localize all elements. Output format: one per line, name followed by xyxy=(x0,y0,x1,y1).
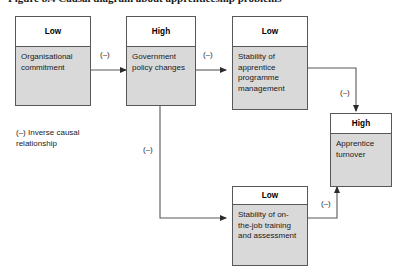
node-label: Apprentice turnover xyxy=(331,134,391,186)
node-apprentice-turnover[interactable]: High Apprentice turnover xyxy=(330,113,392,187)
node-level-badge: High xyxy=(127,17,195,47)
causal-diagram: Figure 8.4 Causal diagram about apprenti… xyxy=(0,0,402,274)
node-organisational-commitment[interactable]: Low Organisational commitment xyxy=(15,16,91,106)
node-stability-on-the-job-training[interactable]: Low Stability of on-the-job training and… xyxy=(232,186,308,266)
node-level-badge: Low xyxy=(16,17,90,47)
node-label: Stability of apprentice programme manage… xyxy=(233,47,307,109)
connector-policy-to-onthejob-training xyxy=(160,105,226,218)
edge-label-policy-to-programme-management: (–) xyxy=(203,50,213,59)
edge-label-onthejob-training-to-turnover: (–) xyxy=(321,199,331,208)
node-label: Stability of on-the-job training and ass… xyxy=(233,205,307,265)
edge-label-commitment-to-policy: (–) xyxy=(100,50,110,59)
edge-label-policy-to-onthejob-training: (–) xyxy=(143,145,153,154)
edge-label-programme-management-to-turnover: (–) xyxy=(340,88,350,97)
legend-inverse-causal-relationship: (–) Inverse causal relationship xyxy=(16,128,92,149)
node-government-policy-changes[interactable]: High Government policy changes xyxy=(126,16,196,106)
node-level-badge: Low xyxy=(233,187,307,205)
node-level-badge: High xyxy=(331,114,391,134)
node-stability-apprentice-programme-management[interactable]: Low Stability of apprentice programme ma… xyxy=(232,16,308,110)
node-label: Organisational commitment xyxy=(16,47,90,105)
node-label: Government policy changes xyxy=(127,47,195,105)
figure-caption: Figure 8.4 Causal diagram about apprenti… xyxy=(8,0,398,5)
node-level-badge: Low xyxy=(233,17,307,47)
